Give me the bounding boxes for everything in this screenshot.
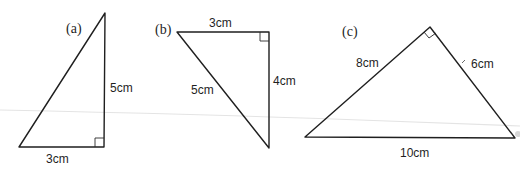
triangle-a: (a) 5cm 3cm bbox=[19, 13, 133, 166]
part-label-b: (b) bbox=[155, 22, 172, 38]
side-label-c-right: 6cm bbox=[471, 57, 494, 71]
side-label-b-hypotenuse: 5cm bbox=[191, 83, 214, 97]
side-label-c-base: 10cm bbox=[400, 146, 429, 160]
edge-tick-mark-c bbox=[462, 60, 465, 63]
right-angle-marker-a bbox=[95, 138, 104, 147]
triangle-c: (c) 8cm 6cm 10cm bbox=[305, 24, 515, 160]
triangle-a-outline bbox=[19, 13, 105, 147]
edge-smudge bbox=[515, 131, 520, 137]
side-label-a-vertical: 5cm bbox=[110, 81, 133, 95]
side-label-b-vertical: 4cm bbox=[273, 74, 296, 88]
triangle-b: (b) 3cm 4cm 5cm bbox=[155, 16, 296, 148]
right-triangles-diagram: (a) 5cm 3cm (b) 3cm 4cm 5cm (c) 8cm 6cm … bbox=[0, 0, 520, 170]
right-angle-marker-b bbox=[260, 32, 269, 41]
scan-artifact-line bbox=[0, 110, 520, 126]
part-label-c: (c) bbox=[342, 24, 358, 40]
side-label-a-base: 3cm bbox=[46, 152, 69, 166]
side-label-c-left: 8cm bbox=[356, 56, 379, 70]
part-label-a: (a) bbox=[66, 21, 82, 37]
side-label-b-top: 3cm bbox=[209, 16, 232, 30]
